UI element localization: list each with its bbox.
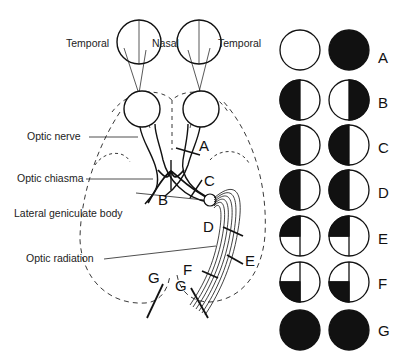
label-optic-chiasma: Optic chiasma [17,172,84,184]
row-label-a: A [378,49,388,66]
lesion-label-g2: G [175,277,187,294]
lesion-label-g1: G [148,269,160,286]
label-left-temporal: Temporal [66,37,109,49]
row-label-e: E [378,230,388,247]
brain-outline [80,92,265,303]
label-optic-radiation: Optic radiation [26,252,94,264]
lesion-label-b: B [158,191,168,208]
optic-radiation-fibers [190,189,240,315]
lesion-label-c: C [204,172,215,189]
field-defect-chart [280,30,369,350]
lesion-label-a: A [199,137,209,154]
lesion-label-e: E [245,252,255,269]
eyes [124,91,219,127]
row-label-f: F [378,275,387,292]
row-label-c: C [378,139,389,156]
row-label-d: D [378,184,389,201]
label-nasal: Nasal [152,37,179,49]
lesion-label-d: D [203,218,214,235]
field-defect-row-labels: A B C D E F G [378,49,390,339]
label-right-temporal: Temporal [218,37,261,49]
row-label-g: G [378,322,390,339]
label-optic-nerve: Optic nerve [27,130,81,142]
row-label-b: B [378,94,388,111]
optic-nerves-and-tracts [140,124,212,204]
lesion-label-f: F [183,261,192,278]
label-lateral-geniculate-body: Lateral geniculate body [14,207,123,219]
visual-pathway-diagram: Temporal Nasal Temporal Optic nerve Opti… [0,0,403,361]
